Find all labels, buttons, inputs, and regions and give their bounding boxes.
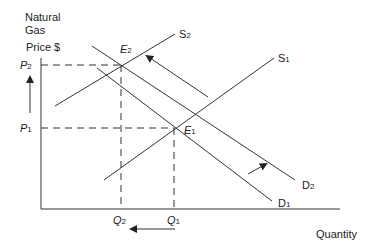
supply-curve-s1: [104, 58, 274, 180]
x-axis-label: Quantity: [316, 228, 357, 240]
curve-label-s1: S1: [278, 52, 290, 66]
title-line2: Gas: [25, 24, 45, 36]
price-label-p1: P1: [20, 122, 32, 136]
curve-label-d1: D1: [278, 197, 290, 211]
curve-label-s2: S2: [179, 28, 191, 42]
supply-shift-arrow: [147, 56, 208, 97]
demand-curve-d2: [92, 46, 295, 180]
y-axis-label: Price $: [26, 41, 60, 53]
equilibrium-label-e1: E1: [184, 124, 196, 138]
equilibrium-label-e2: E2: [120, 43, 132, 57]
quantity-label-q1: Q1: [167, 214, 180, 228]
supply-curve-s2: [55, 34, 175, 106]
quantity-label-q2: Q2: [113, 214, 126, 228]
curve-label-d2: D2: [302, 179, 314, 193]
price-label-p2: P2: [20, 59, 32, 73]
title-line1: Natural: [25, 11, 60, 23]
demand-shift-arrow: [248, 164, 266, 174]
